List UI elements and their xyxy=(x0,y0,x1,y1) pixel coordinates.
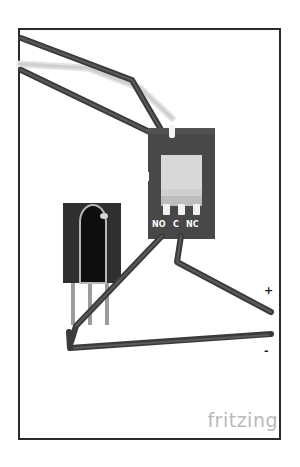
relay-body-upper xyxy=(161,155,202,189)
relay-top-pad[interactable] xyxy=(169,125,175,138)
ir-receiver-dome-highlight xyxy=(100,213,108,219)
pin-label-nc: NC xyxy=(186,221,199,229)
pin-label-c: C xyxy=(173,221,179,229)
relay-pin-nc[interactable] xyxy=(193,204,200,215)
pin-label-no: NO xyxy=(152,221,166,229)
ir-lead-3[interactable] xyxy=(105,278,109,325)
polarity-label-negative: - xyxy=(264,345,269,356)
relay-pins xyxy=(163,204,200,215)
sketch-canvas: NO C NC + - fritzing xyxy=(0,0,300,467)
ir-lead-2[interactable] xyxy=(88,278,92,325)
common-terminal-wire-highlight xyxy=(177,236,271,312)
ground-wire-highlight xyxy=(74,335,268,348)
relay-pin-c[interactable] xyxy=(178,204,185,215)
circuit-illustration xyxy=(0,0,300,467)
relay-pin-no[interactable] xyxy=(163,204,170,215)
fritzing-watermark: fritzing xyxy=(207,409,278,431)
common-terminal-wire-group xyxy=(177,236,271,312)
common-terminal-wire[interactable] xyxy=(177,236,271,312)
signal-wire-lower-group xyxy=(21,70,158,136)
polarity-label-positive: + xyxy=(264,285,273,296)
relay-board-top-shade xyxy=(148,128,215,134)
ir-lead-1[interactable] xyxy=(71,278,75,325)
signal-wire-lower-highlight xyxy=(21,70,158,136)
relay-board-notch xyxy=(144,172,149,181)
ground-wire-group xyxy=(69,332,271,348)
